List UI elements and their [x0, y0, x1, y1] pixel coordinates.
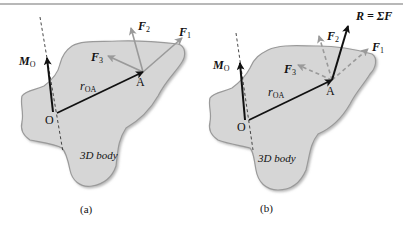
label-3d-body: 3D body: [79, 149, 118, 161]
label-point-a: A: [136, 75, 145, 89]
caption-b: (b): [260, 202, 273, 215]
label-3d-body: 3D body: [257, 152, 296, 164]
panel-b: MO rOA O A R = ΣF F1 F2 F3 3D body (b): [209, 9, 392, 215]
label-point-o: O: [45, 113, 54, 127]
caption-a: (a): [80, 203, 93, 216]
label-point-a: A: [326, 84, 335, 98]
label-point-o: O: [237, 120, 246, 134]
label-mo: MO: [18, 54, 36, 69]
label-f2: F2: [326, 29, 339, 44]
label-mo: MO: [212, 58, 230, 73]
label-f1: F1: [371, 40, 384, 55]
moment-diagram: MO rOA O A F1 F2 F3 3D body (a) MO rOA O…: [0, 0, 403, 228]
label-f2: F2: [137, 19, 150, 34]
label-resultant: R = ΣF: [355, 9, 392, 23]
label-f1: F1: [178, 25, 191, 40]
panel-a: MO rOA O A F1 F2 F3 3D body (a): [18, 17, 191, 216]
